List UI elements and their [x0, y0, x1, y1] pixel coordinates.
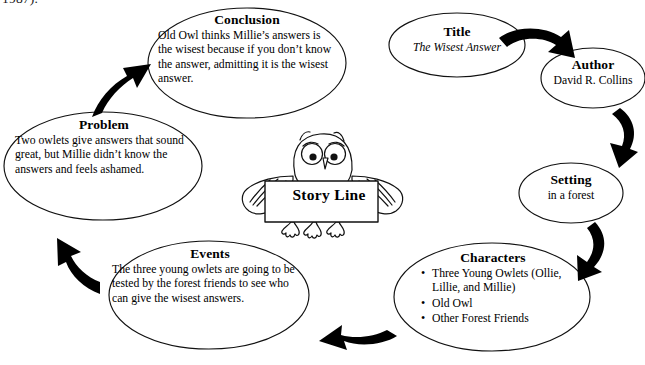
arrow-setting-to-characters: [577, 222, 604, 281]
node-events-title: Events: [112, 246, 308, 261]
owl-ear-left: [300, 132, 310, 140]
list-item: Old Owl: [421, 297, 579, 311]
owl-ear-right: [334, 132, 344, 141]
story-map-diagram: 1987).: [0, 0, 645, 365]
arrow-problem-to-conclusion: [92, 64, 151, 117]
node-author-title: Author: [541, 57, 645, 72]
node-characters-bullet-list: Three Young Owlets (Ollie, Lillie, and M…: [407, 267, 579, 326]
node-characters: Characters Three Young Owlets (Ollie, Li…: [407, 250, 579, 327]
owl-eye-left: [302, 144, 323, 165]
node-setting-body: in a forest: [519, 189, 623, 203]
owl-head: [294, 134, 352, 183]
owl-eye-right: [325, 144, 346, 165]
arrow-characters-to-events: [319, 325, 397, 350]
owl-talon-middle: [304, 222, 321, 238]
node-characters-title: Characters: [407, 250, 579, 265]
arrow-author-to-setting: [610, 108, 638, 168]
node-conclusion-body: Old Owl thinks Millie’s answers is the w…: [158, 29, 336, 86]
owl-brow-right: [329, 142, 344, 146]
owl-pupil-right: [330, 153, 337, 160]
list-item: Other Forest Friends: [421, 312, 579, 326]
node-conclusion-title: Conclusion: [158, 12, 336, 27]
owl-brow-left: [303, 142, 318, 146]
arrow-events-to-problem: [57, 238, 100, 294]
node-problem: Problem Two owlets give answers that sou…: [15, 117, 193, 177]
node-title-body: The Wisest Answer: [398, 41, 516, 55]
node-problem-title: Problem: [15, 117, 193, 132]
node-author: Author David R. Collins: [541, 57, 645, 88]
owl-pupil-left: [309, 153, 316, 160]
node-problem-body: Two owlets give answers that sound great…: [15, 134, 193, 177]
node-setting: Setting in a forest: [519, 172, 623, 203]
story-line-label: Story Line: [269, 186, 389, 204]
owl-beak: [323, 158, 328, 169]
node-conclusion: Conclusion Old Owl thinks Millie’s answe…: [158, 12, 336, 86]
owl-talon-right: [327, 222, 344, 237]
node-events-body: The three young owlets are going to be t…: [112, 263, 308, 306]
node-events: Events The three young owlets are going …: [112, 246, 308, 306]
list-item: Three Young Owlets (Ollie, Lillie, and M…: [421, 267, 579, 296]
node-author-body: David R. Collins: [541, 74, 645, 88]
node-setting-title: Setting: [519, 172, 623, 187]
node-title-title: Title: [398, 24, 516, 39]
page-text-fragment: 1987).: [2, 0, 38, 7]
owl-figure: [242, 132, 402, 238]
owl-talon-left: [282, 222, 299, 237]
node-title: Title The Wisest Answer: [398, 24, 516, 55]
